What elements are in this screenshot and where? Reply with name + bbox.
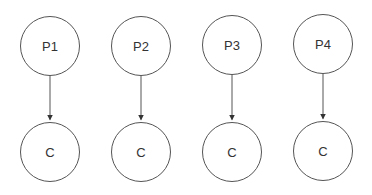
node-label: C: [45, 145, 54, 160]
node-label: P4: [315, 37, 331, 52]
node-label: P1: [42, 39, 58, 54]
node-label: C: [318, 144, 327, 159]
node-p2: P2: [112, 17, 171, 76]
node-c3: C: [203, 123, 262, 182]
node-label: P3: [224, 38, 240, 53]
edges-layer: [50, 74, 323, 120]
node-c4: C: [294, 122, 353, 181]
parent-child-diagram: P1P2P3P4CCCC: [0, 0, 372, 195]
node-p4: P4: [294, 15, 353, 74]
node-label: C: [136, 145, 145, 160]
node-label: C: [227, 145, 236, 160]
node-p3: P3: [203, 16, 262, 75]
node-c2: C: [112, 123, 171, 182]
nodes-layer: P1P2P3P4CCCC: [21, 15, 353, 182]
node-p1: P1: [21, 17, 80, 76]
node-c1: C: [21, 123, 80, 182]
node-label: P2: [133, 39, 149, 54]
